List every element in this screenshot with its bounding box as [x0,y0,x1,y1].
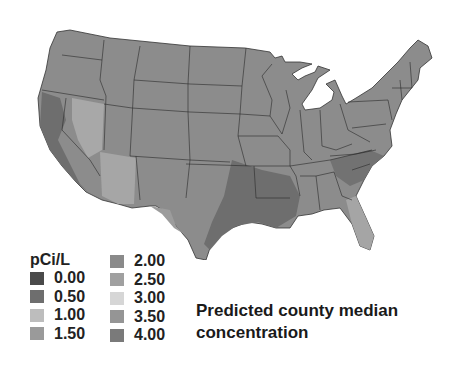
legend-label: 3.00 [134,289,165,307]
legend-label: 1.50 [54,325,85,343]
legend-item: 3.50 [110,308,165,327]
legend-item: 1.50 [30,325,85,344]
legend-item: 2.00 [110,252,165,271]
legend-title: pCi/L [30,251,70,269]
legend-label: 2.00 [134,252,165,270]
legend-column-1: 0.00 0.50 1.00 1.50 [30,269,85,343]
legend-swatch [110,310,124,323]
legend-swatch [110,255,124,268]
legend-item: 3.00 [110,289,165,308]
legend-label: 0.00 [54,269,85,287]
legend-label: 2.50 [134,271,165,289]
legend-swatch [30,327,44,340]
legend-item: 1.00 [30,306,85,325]
legend-label: 1.00 [54,306,85,324]
legend-label: 3.50 [134,308,165,326]
us-county-map [0,0,454,260]
legend-column-2: 2.00 2.50 3.00 3.50 4.00 [110,252,165,345]
legend-item: 2.50 [110,271,165,290]
legend-swatch [110,329,124,342]
legend-swatch [30,272,44,285]
legend-item: 0.50 [30,288,85,307]
legend-swatch [110,273,124,286]
legend-label: 4.00 [134,326,165,344]
legend-swatch [30,309,44,322]
legend-swatch [110,292,124,305]
caption-line-2: concentration [196,322,452,344]
caption-line-1: Predicted county median [196,300,452,322]
legend-swatch [30,290,44,303]
legend-item: 0.00 [30,269,85,288]
legend-item: 4.00 [110,326,165,345]
legend-label: 0.50 [54,288,85,306]
map-caption: Predicted county median concentration [196,300,452,344]
